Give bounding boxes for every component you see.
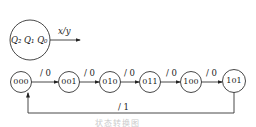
state-000: 000 (9, 78, 33, 86)
diagram-caption: 状态转换图 (95, 117, 140, 127)
state-diagram: Q₂ Q₁ Q₀ x/y 000 001 010 011 100 101 / 0… (0, 0, 256, 127)
transition-label: / 0 (84, 69, 95, 78)
transition-label: / 0 (40, 69, 51, 78)
legend-state-label: Q₂ Q₁ Q₀ (11, 36, 48, 45)
state-011: 011 (138, 78, 162, 86)
transition-label: / 0 (206, 69, 217, 78)
state-101: 101 (222, 77, 246, 85)
transition-label: / 0 (166, 69, 177, 78)
transition-label: / 1 (118, 103, 129, 112)
transition-label: / 0 (124, 69, 135, 78)
legend-arrow-label: x/y (58, 27, 70, 36)
state-001: 001 (57, 78, 81, 86)
state-100: 100 (179, 78, 203, 86)
state-010: 010 (98, 78, 122, 86)
